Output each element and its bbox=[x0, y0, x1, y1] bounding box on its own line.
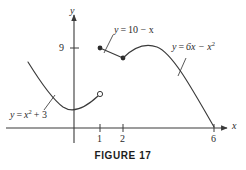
curve-label-segment: y=10 − x bbox=[114, 25, 154, 35]
left-label-eq: = bbox=[16, 109, 22, 120]
leader-line-left-curve-label bbox=[44, 95, 55, 110]
curve-6x-minus-x-squared bbox=[123, 45, 214, 127]
x-tick-label-2: 2 bbox=[120, 134, 125, 144]
open-endpoint-marker bbox=[97, 91, 102, 96]
x-axis-label: x bbox=[232, 121, 236, 131]
right-label-lhs: y bbox=[172, 41, 176, 52]
right-label-rhs: 6x − x bbox=[186, 41, 212, 52]
curve-x-squared-plus-3 bbox=[28, 62, 98, 110]
curve-label-right: y=6x − x2 bbox=[172, 42, 215, 52]
figure-container: y x 9 1 2 6 y=10 − x y=6x − x2 y=x2+ 3 F… bbox=[0, 0, 246, 170]
left-label-exponent: 2 bbox=[29, 108, 32, 115]
y-axis-label: y bbox=[70, 6, 74, 16]
segment-10-minus-x bbox=[100, 48, 123, 58]
segment-label-lhs: y bbox=[114, 24, 118, 35]
y-tick-label-9: 9 bbox=[59, 43, 64, 53]
right-label-eq: = bbox=[178, 41, 184, 52]
left-label-lhs: y bbox=[10, 109, 14, 120]
left-label-tail: + 3 bbox=[34, 109, 47, 120]
right-label-exponent: 2 bbox=[212, 40, 215, 47]
x-tick-label-1: 1 bbox=[97, 134, 102, 144]
figure-caption: FIGURE 17 bbox=[0, 150, 246, 161]
x-tick-label-6: 6 bbox=[211, 134, 216, 144]
leader-line-segment-label bbox=[104, 35, 113, 53]
closed-endpoint-marker-left bbox=[98, 46, 103, 51]
segment-label-rhs: 10 − x bbox=[128, 24, 154, 35]
curve-label-left: y=x2+ 3 bbox=[10, 110, 49, 120]
segment-label-eq: = bbox=[120, 24, 126, 35]
